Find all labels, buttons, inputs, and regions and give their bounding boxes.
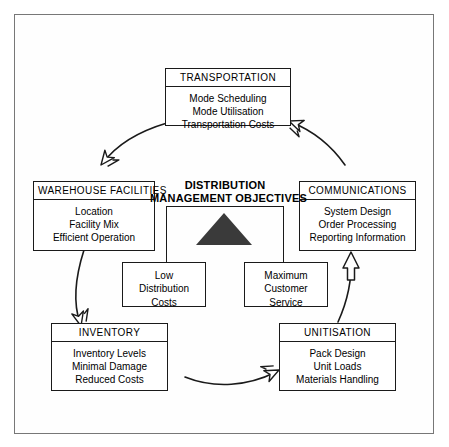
node-inventory[interactable]: INVENTORY Inventory Levels Minimal Damag…	[51, 323, 168, 391]
node-warehouse-facilities-item-2: Efficient Operation	[39, 231, 149, 244]
node-communications-item-1: Order Processing	[305, 218, 410, 231]
node-unitisation[interactable]: UNITISATION Pack Design Unit Loads Mater…	[279, 323, 396, 391]
node-communications-item-0: System Design	[305, 205, 410, 218]
node-communications-item-2: Reporting Information	[305, 231, 410, 244]
node-communications-body: System Design Order Processing Reporting…	[300, 200, 415, 251]
node-transportation-item-2: Transportation Costs	[171, 118, 285, 131]
node-unitisation-title: UNITISATION	[280, 324, 395, 342]
node-transportation-item-1: Mode Utilisation	[171, 105, 285, 118]
node-inventory-item-1: Minimal Damage	[57, 360, 162, 373]
sub-node-low-distribution-costs[interactable]: Low Distribution Costs	[122, 262, 206, 307]
node-warehouse-facilities-item-1: Facility Mix	[39, 218, 149, 231]
node-inventory-item-2: Reduced Costs	[57, 373, 162, 386]
sub-node-maximum-customer-service-line-1: Customer	[245, 282, 327, 295]
node-warehouse-facilities-title: WAREHOUSE FACILITIES	[34, 182, 154, 200]
node-unitisation-body: Pack Design Unit Loads Materials Handlin…	[280, 342, 395, 393]
center-heading-line-2: MANAGEMENT OBJECTIVES	[150, 192, 300, 205]
center-heading-line-1: DISTRIBUTION	[150, 179, 300, 192]
sub-node-maximum-customer-service[interactable]: Maximum Customer Service	[244, 262, 328, 307]
node-inventory-item-0: Inventory Levels	[57, 347, 162, 360]
sub-node-low-distribution-costs-line-1: Distribution	[123, 282, 205, 295]
sub-node-maximum-customer-service-line-2: Service	[245, 296, 327, 309]
node-inventory-title: INVENTORY	[52, 324, 167, 342]
node-unitisation-item-2: Materials Handling	[285, 373, 390, 386]
node-warehouse-facilities[interactable]: WAREHOUSE FACILITIES Location Facility M…	[33, 181, 155, 251]
center-heading: DISTRIBUTION MANAGEMENT OBJECTIVES	[150, 179, 300, 206]
node-unitisation-item-0: Pack Design	[285, 347, 390, 360]
node-warehouse-facilities-body: Location Facility Mix Efficient Operatio…	[34, 200, 154, 251]
node-communications-title: COMMUNICATIONS	[300, 182, 415, 200]
node-warehouse-facilities-item-0: Location	[39, 205, 149, 218]
node-transportation-body: Mode Scheduling Mode Utilisation Transpo…	[166, 87, 290, 138]
node-inventory-body: Inventory Levels Minimal Damage Reduced …	[52, 342, 167, 393]
diagram-page: TRANSPORTATION Mode Scheduling Mode Util…	[0, 0, 449, 447]
sub-node-maximum-customer-service-line-0: Maximum	[245, 269, 327, 282]
node-unitisation-item-1: Unit Loads	[285, 360, 390, 373]
sub-node-low-distribution-costs-line-2: Costs	[123, 296, 205, 309]
node-transportation-title: TRANSPORTATION	[166, 69, 290, 87]
node-transportation[interactable]: TRANSPORTATION Mode Scheduling Mode Util…	[165, 68, 291, 126]
node-transportation-item-0: Mode Scheduling	[171, 92, 285, 105]
sub-node-low-distribution-costs-line-0: Low	[123, 269, 205, 282]
node-communications[interactable]: COMMUNICATIONS System Design Order Proce…	[299, 181, 416, 251]
filled-triangle-icon	[196, 213, 252, 245]
